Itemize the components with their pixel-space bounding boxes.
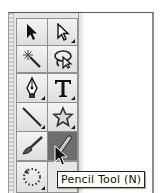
type-tool-button[interactable] [48,74,77,102]
magic-wand-icon [22,49,42,69]
direct-selection-tool-button[interactable] [48,19,77,45]
flyout-indicator-icon [41,186,45,190]
flyout-indicator-icon [41,125,45,129]
magic-wand-tool-button[interactable] [17,46,47,72]
selection-tool-button[interactable] [17,19,47,45]
tool-tooltip: Pencil Tool (N) [57,171,145,188]
flyout-indicator-icon [71,125,75,129]
flyout-indicator-icon [71,39,75,43]
paintbrush-tool-button[interactable] [17,132,47,160]
selection-arrow-icon [25,23,39,41]
line-segment-tool-button[interactable] [17,103,47,131]
line-segment-icon [21,106,43,128]
direct-selection-arrow-icon [56,23,70,41]
panel-drag-grip[interactable] [9,13,14,193]
star-tool-button[interactable] [48,103,77,131]
lasso-tool-button[interactable] [48,46,77,72]
mouse-cursor-icon [54,145,70,167]
rotate-icon [21,166,43,188]
flyout-indicator-icon [71,96,75,100]
type-icon [54,78,72,98]
lasso-icon [52,49,74,69]
paintbrush-icon [20,135,44,157]
pen-tool-button[interactable] [17,74,47,102]
pen-icon [24,77,40,99]
flyout-indicator-icon [41,96,45,100]
selection-tools-group [16,18,78,73]
rotate-tool-button[interactable] [17,162,47,192]
